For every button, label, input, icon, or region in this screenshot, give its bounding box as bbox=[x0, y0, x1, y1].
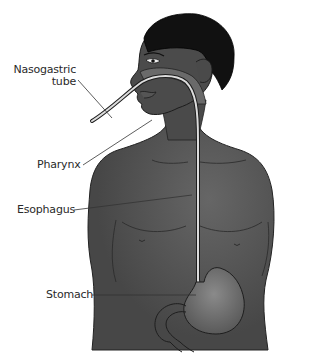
label-nasogastric-tube-line2: tube bbox=[6, 76, 76, 88]
head bbox=[131, 14, 234, 115]
label-nasogastric-tube: Nasogastric tube bbox=[6, 64, 76, 88]
leader-nasogastric-tube bbox=[78, 80, 112, 118]
label-pharynx: Pharynx bbox=[37, 159, 80, 171]
label-esophagus: Esophagus bbox=[17, 204, 75, 216]
nasogastric-tube-diagram: Nasogastric tube Pharynx Esophagus Stoma… bbox=[0, 0, 312, 361]
anatomy-illustration bbox=[0, 0, 312, 361]
label-stomach: Stomach bbox=[46, 289, 93, 301]
torso bbox=[88, 118, 274, 350]
